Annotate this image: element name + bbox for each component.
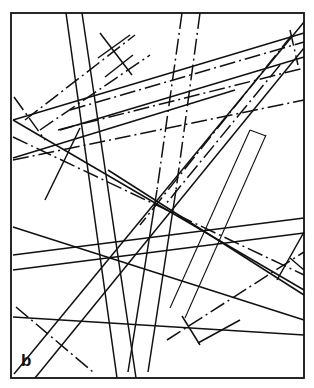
line-left-mid-thin (45, 128, 80, 200)
line-right-edge-cap (290, 258, 304, 270)
line-h-solid-3 (13, 317, 304, 335)
line-thin-pair-cap (250, 130, 266, 136)
line-upper-band-solid-1 (13, 33, 304, 120)
line-low-right-dashdot (167, 252, 304, 340)
line-low-right-tick-2 (198, 320, 240, 343)
line-mid-band-dashdot-1 (13, 100, 304, 160)
line-diagram (0, 0, 314, 388)
line-cross-down-2 (13, 137, 304, 275)
line-diag-dashdot-big-1 (140, 35, 292, 225)
line-hash-b (98, 35, 130, 58)
line-h-solid-1 (13, 218, 304, 255)
line-cross-down-3 (108, 170, 304, 295)
panel-label: b (21, 352, 31, 369)
line-diag-solid-big-1 (14, 22, 304, 374)
line-group (13, 13, 304, 378)
